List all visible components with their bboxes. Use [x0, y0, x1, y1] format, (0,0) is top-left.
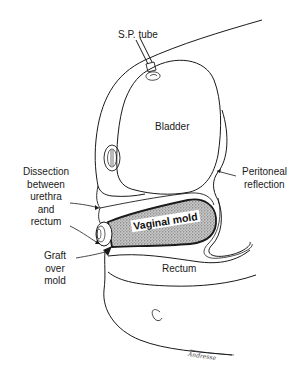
- dissection-arrow-lower: [70, 226, 100, 244]
- label-peritoneal-line1: Peritoneal: [242, 166, 287, 179]
- label-dissection-line3: urethra: [17, 191, 75, 204]
- label-peritoneal-line2: reflection: [242, 179, 287, 192]
- label-sp-tube: S.P. tube: [118, 29, 158, 42]
- label-graft-line3: mold: [40, 275, 70, 288]
- label-bladder: Bladder: [155, 121, 189, 134]
- coccyx-hook: [152, 310, 162, 321]
- label-graft-line1: Graft: [40, 250, 70, 263]
- graft-pointer: [76, 252, 105, 258]
- tube-balloon: [146, 72, 160, 80]
- label-dissection-line1: Dissection: [17, 166, 75, 179]
- label-graft: Graft over mold: [40, 250, 70, 288]
- anatomical-illustration: S.P. tube Bladder Peritoneal reflection …: [0, 0, 308, 372]
- label-dissection-line2: between: [17, 179, 75, 192]
- label-dissection: Dissection between urethra and rectum: [17, 166, 75, 229]
- label-graft-line2: over: [40, 263, 70, 276]
- label-peritoneal-reflection: Peritoneal reflection: [242, 166, 287, 191]
- label-rectum: Rectum: [162, 263, 196, 276]
- label-dissection-line4: and: [17, 204, 75, 217]
- label-dissection-line5: rectum: [17, 216, 75, 229]
